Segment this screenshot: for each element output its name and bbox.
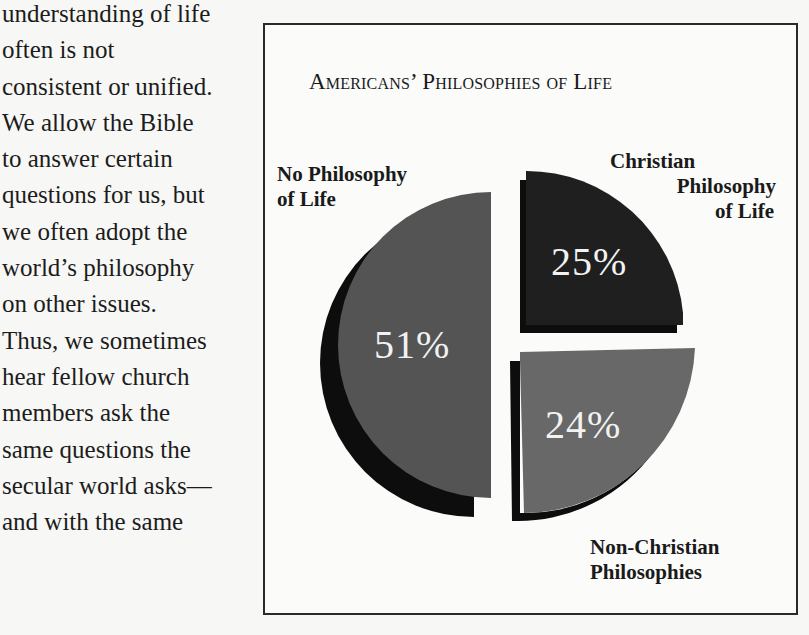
label-line: No Philosophy [277, 162, 407, 187]
body-text-line: Thus, we sometimes [2, 323, 260, 359]
slice-christian-shadow-left [520, 180, 527, 333]
body-text-line: questions for us, but [2, 177, 260, 213]
label-line: Philosophy [590, 174, 776, 199]
label-non-christian: Non-Christian Philosophies [590, 535, 720, 585]
pie-chart [265, 25, 796, 613]
body-text-line: world’s philosophy [2, 250, 260, 286]
body-text-line: consistent or unified. [2, 69, 260, 105]
label-line: of Life [590, 199, 776, 224]
body-text-line: we often adopt the [2, 214, 260, 250]
body-text-line: secular world asks— [2, 468, 260, 504]
pct-label-no-philosophy: 51% [374, 321, 450, 368]
body-text-line: on other issues. [2, 286, 260, 322]
body-text-line: hear fellow church [2, 359, 260, 395]
label-no-philosophy: No Philosophy of Life [277, 162, 407, 212]
body-text-line: and with the same [2, 504, 260, 540]
label-line: of Life [277, 187, 407, 212]
pct-label-non-christian: 24% [545, 401, 621, 448]
label-line: Non-Christian [590, 535, 720, 560]
label-christian: Christian Philosophy of Life [590, 149, 776, 224]
body-text-line: to answer certain [2, 141, 260, 177]
body-text-line: understanding of life [2, 0, 260, 32]
body-text-line: same questions the [2, 432, 260, 468]
body-text-line: often is not [2, 32, 260, 68]
body-text-line: members ask the [2, 395, 260, 431]
figure-box: Americans’ Philosophies of Life 51% 25% … [263, 23, 798, 615]
pct-label-christian: 25% [551, 238, 627, 285]
label-line: Philosophies [590, 560, 720, 585]
body-text-column: understanding of life often is not consi… [2, 0, 260, 540]
body-text-line: We allow the Bible [2, 105, 260, 141]
label-line: Christian [590, 149, 776, 174]
